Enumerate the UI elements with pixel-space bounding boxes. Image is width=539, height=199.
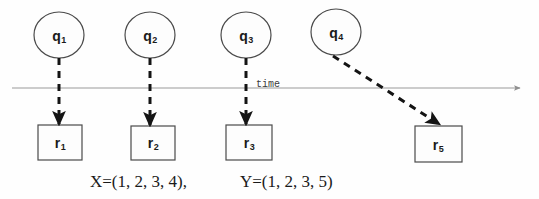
result-node-r3-subscript: 3 xyxy=(250,142,255,152)
result-node-r2-label: r2 xyxy=(148,135,158,151)
mapping-edges xyxy=(59,56,439,125)
time-axis-label: time xyxy=(256,79,280,90)
result-node-r1-letter: r xyxy=(55,135,60,151)
query-node-q3-subscript: 3 xyxy=(248,35,253,45)
query-node-shapes xyxy=(34,9,361,58)
result-node-r2-letter: r xyxy=(148,135,153,151)
query-node-q1-subscript: 1 xyxy=(61,35,66,45)
query-node-q4-letter: q xyxy=(329,25,338,41)
result-node-r3-letter: r xyxy=(244,135,249,151)
query-node-q4-subscript: 4 xyxy=(338,32,343,42)
result-node-r3-label: r3 xyxy=(244,135,254,151)
diagram-vector-layer xyxy=(0,0,539,199)
query-node-q2-subscript: 2 xyxy=(152,35,157,45)
query-node-q4-label: q4 xyxy=(329,25,343,41)
query-node-q1-letter: q xyxy=(52,28,61,44)
query-node-q2-letter: q xyxy=(143,28,152,44)
result-node-r1-label: r1 xyxy=(55,135,65,151)
result-node-r2-subscript: 2 xyxy=(154,142,159,152)
query-node-q3-letter: q xyxy=(239,28,248,44)
result-node-r5-letter: r xyxy=(433,137,438,153)
result-node-r1-subscript: 1 xyxy=(61,142,66,152)
query-node-q3-label: q3 xyxy=(239,28,253,44)
result-node-r5-label: r5 xyxy=(433,137,443,153)
y-sequence-formula: Y=(1, 2, 3, 5) xyxy=(240,172,333,192)
result-node-r5-subscript: 5 xyxy=(439,144,444,154)
query-node-q1-label: q1 xyxy=(52,28,66,44)
edge-q4-to-r5 xyxy=(333,56,439,124)
query-node-q2-label: q2 xyxy=(143,28,157,44)
diagram-canvas: q1 q2 q3 q4 r1 r2 r3 r5 time X=(1, 2, 3,… xyxy=(0,0,539,199)
x-sequence-formula: X=(1, 2, 3, 4), xyxy=(90,172,187,192)
